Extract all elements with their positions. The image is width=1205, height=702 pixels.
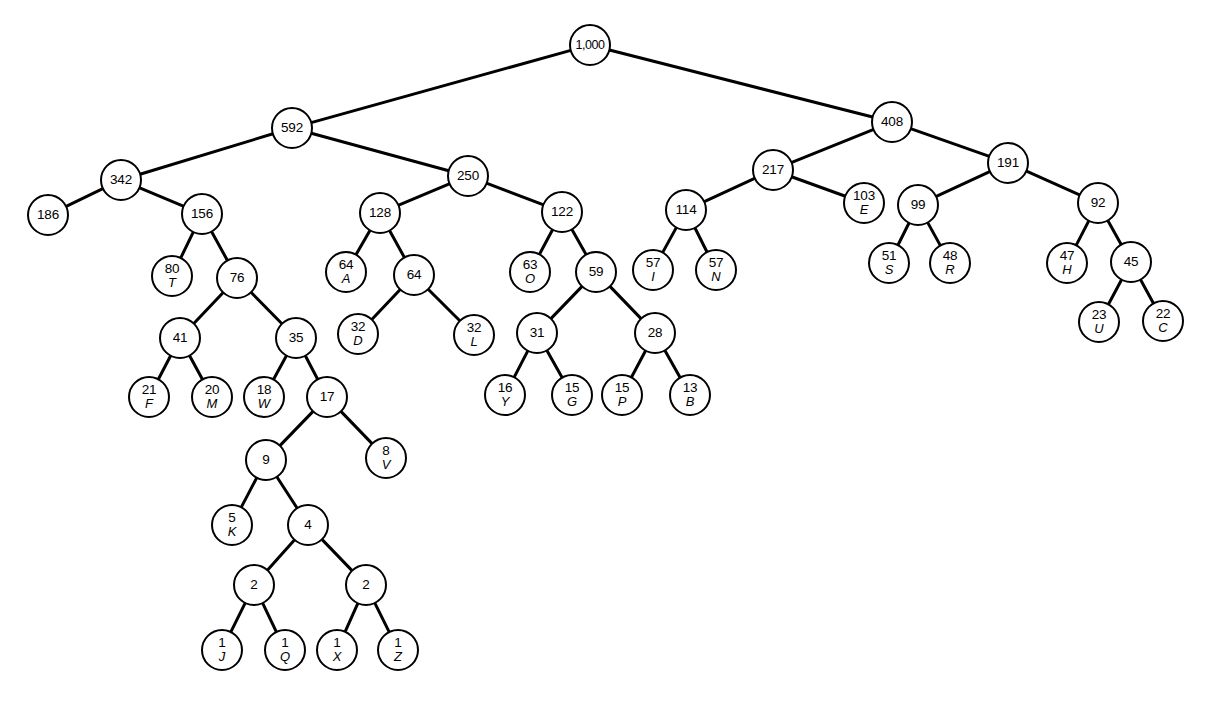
- node-weight-label: 16: [498, 381, 513, 395]
- tree-internal-node: 35: [275, 317, 317, 359]
- node-weight-label: 57: [646, 256, 661, 270]
- node-weight-label: 45: [1124, 255, 1139, 269]
- node-weight-label: 191: [997, 156, 1019, 170]
- node-symbol-label: L: [470, 335, 477, 348]
- tree-internal-node: 9: [245, 439, 287, 481]
- tree-leaf-node: 22C: [1142, 300, 1184, 342]
- tree-internal-node: 128: [359, 192, 401, 234]
- node-weight-label: 48: [943, 249, 958, 263]
- node-weight-label: 17: [320, 390, 335, 404]
- node-symbol-label: O: [525, 272, 535, 285]
- tree-internal-node: 1,000: [569, 24, 611, 66]
- node-weight-label: 99: [911, 198, 926, 212]
- node-symbol-label: W: [258, 397, 270, 410]
- node-weight-label: 31: [530, 326, 545, 340]
- tree-leaf-node: 5K: [211, 504, 253, 546]
- node-weight-label: 32: [351, 320, 366, 334]
- tree-internal-node: 76: [216, 257, 258, 299]
- tree-leaf-node: 21F: [128, 376, 170, 418]
- node-weight-label: 23: [1092, 308, 1107, 322]
- node-weight-label: 13: [683, 381, 698, 395]
- node-weight-label: 28: [648, 326, 663, 340]
- tree-leaf-node: 32L: [453, 314, 495, 356]
- node-weight-label: 2: [250, 578, 257, 592]
- tree-internal-node: 191: [987, 142, 1029, 184]
- node-symbol-label: P: [618, 395, 627, 408]
- tree-internal-node: 59: [575, 251, 617, 293]
- tree-leaf-node: 32D: [337, 313, 379, 355]
- node-symbol-label: F: [145, 397, 153, 410]
- tree-leaf-node: 1Q: [264, 629, 306, 671]
- tree-leaf-node: 103E: [843, 182, 885, 224]
- tree-leaf-node: 80T: [151, 255, 193, 297]
- node-symbol-label: M: [207, 397, 218, 410]
- node-symbol-label: G: [567, 395, 577, 408]
- tree-leaf-node: 47H: [1046, 242, 1088, 284]
- node-weight-label: 8: [382, 444, 389, 458]
- tree-internal-node: 31: [516, 312, 558, 354]
- tree-node-layer: 1,00059240834225018615612812221719111410…: [0, 0, 1205, 702]
- node-weight-label: 64: [407, 268, 422, 282]
- node-weight-label: 18: [257, 383, 272, 397]
- node-symbol-label: I: [651, 270, 655, 283]
- tree-internal-node: 408: [871, 101, 913, 143]
- node-weight-label: 15: [615, 381, 630, 395]
- node-weight-label: 1: [394, 636, 401, 650]
- node-weight-label: 59: [589, 265, 604, 279]
- tree-leaf-node: 1J: [201, 629, 243, 671]
- node-weight-label: 217: [762, 163, 784, 177]
- node-weight-label: 408: [881, 115, 903, 129]
- node-symbol-label: D: [353, 334, 362, 347]
- tree-internal-node: 99: [897, 184, 939, 226]
- tree-leaf-node: 63O: [509, 251, 551, 293]
- node-weight-label: 5: [228, 511, 235, 525]
- node-weight-label: 41: [173, 331, 188, 345]
- tree-internal-node: 2: [345, 564, 387, 606]
- tree-internal-node: 186: [27, 194, 69, 236]
- node-weight-label: 20: [205, 383, 220, 397]
- huffman-tree-figure: 1,00059240834225018615612812221719111410…: [0, 0, 1205, 702]
- node-symbol-label: C: [1158, 321, 1167, 334]
- node-weight-label: 250: [457, 169, 479, 183]
- node-symbol-label: Y: [501, 395, 510, 408]
- node-symbol-label: R: [945, 263, 954, 276]
- node-weight-label: 15: [565, 381, 580, 395]
- node-weight-label: 1: [218, 636, 225, 650]
- node-weight-label: 22: [1156, 307, 1171, 321]
- tree-internal-node: 92: [1077, 182, 1119, 224]
- node-symbol-label: A: [342, 272, 351, 285]
- tree-internal-node: 122: [541, 191, 583, 233]
- node-weight-label: 76: [230, 271, 245, 285]
- node-symbol-label: S: [885, 263, 894, 276]
- node-symbol-label: J: [219, 650, 226, 663]
- node-symbol-label: Q: [280, 650, 290, 663]
- tree-leaf-node: 15P: [601, 374, 643, 416]
- node-symbol-label: E: [860, 203, 869, 216]
- tree-internal-node: 217: [752, 149, 794, 191]
- node-weight-label: 9: [262, 453, 269, 467]
- node-weight-label: 103: [853, 189, 875, 203]
- node-weight-label: 114: [676, 203, 697, 217]
- tree-internal-node: 41: [159, 317, 201, 359]
- node-symbol-label: K: [228, 525, 237, 538]
- node-symbol-label: U: [1094, 322, 1103, 335]
- node-weight-label: 128: [369, 206, 391, 220]
- tree-internal-node: 114: [665, 189, 707, 231]
- tree-internal-node: 17: [306, 376, 348, 418]
- node-weight-label: 1: [333, 636, 340, 650]
- node-weight-label: 122: [551, 205, 573, 219]
- tree-leaf-node: 13B: [669, 374, 711, 416]
- tree-internal-node: 342: [100, 159, 142, 201]
- tree-internal-node: 592: [271, 107, 313, 149]
- tree-leaf-node: 20M: [191, 376, 233, 418]
- node-symbol-label: T: [168, 276, 176, 289]
- node-symbol-label: N: [711, 270, 720, 283]
- node-symbol-label: H: [1062, 263, 1071, 276]
- tree-leaf-node: 8V: [365, 437, 407, 479]
- node-weight-label: 342: [110, 173, 132, 187]
- node-weight-label: 32: [467, 321, 482, 335]
- tree-leaf-node: 57I: [632, 249, 674, 291]
- tree-leaf-node: 57N: [695, 249, 737, 291]
- node-weight-label: 2: [362, 578, 369, 592]
- tree-leaf-node: 64A: [325, 251, 367, 293]
